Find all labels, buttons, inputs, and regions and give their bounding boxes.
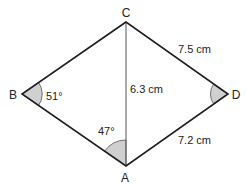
geometry-diagram: C B D A 7.5 cm 6.3 cm 7.2 cm 51° 47° [0, 0, 246, 189]
length-label-cd: 7.5 cm [178, 43, 211, 55]
length-label-ca: 6.3 cm [130, 83, 163, 95]
vertex-label-b: B [9, 88, 17, 102]
angle-marker-b [22, 83, 42, 106]
vertex-label-a: A [121, 171, 129, 185]
length-label-ad: 7.2 cm [178, 134, 211, 146]
vertex-label-c: C [122, 6, 131, 20]
angle-label-b: 51° [46, 90, 63, 102]
vertex-label-d: D [232, 88, 241, 102]
angle-label-a: 47° [98, 125, 115, 137]
